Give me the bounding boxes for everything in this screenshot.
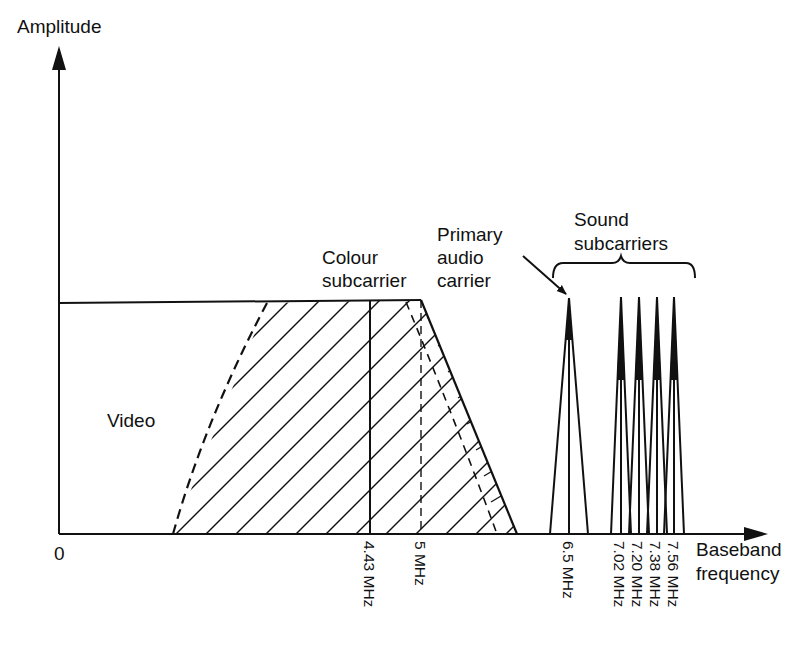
primary-audio-label-line3: carrier bbox=[437, 270, 492, 291]
tick-label-7-38-mhz: 7.38 MHz bbox=[647, 541, 664, 607]
sound-subcarrier-peak-720 bbox=[629, 297, 649, 534]
tick-label-5-mhz: 5 MHz bbox=[412, 541, 429, 586]
primary-audio-label-line1: Primary bbox=[437, 224, 503, 245]
video-top-line bbox=[59, 300, 421, 303]
x-axis-label-line1: Baseband bbox=[696, 539, 782, 560]
sound-subcarrier-peaks bbox=[611, 297, 684, 534]
x-axis bbox=[59, 527, 768, 541]
x-axis-label-line2: frequency bbox=[696, 563, 780, 584]
video-rolloff-left-dashed bbox=[173, 303, 267, 534]
tick-label-7-56-mhz: 7.56 MHz bbox=[665, 541, 682, 607]
x-axis-origin-label: 0 bbox=[54, 543, 65, 564]
tick-label-6-5-mhz: 6.5 MHz bbox=[560, 541, 577, 599]
colour-band-right-edge bbox=[421, 300, 517, 534]
tick-label-7-02-mhz: 7.02 MHz bbox=[611, 541, 628, 607]
sound-subcarriers-label-line1: Sound bbox=[574, 209, 629, 230]
colour-subcarrier-label-line2: subcarrier bbox=[322, 270, 407, 291]
sound-subcarriers-label-line2: subcarriers bbox=[574, 233, 668, 254]
baseband-spectrum-diagram: Amplitude 0 Baseband frequency bbox=[0, 0, 812, 661]
y-axis-label: Amplitude bbox=[17, 16, 102, 37]
sound-subcarrier-peak-702 bbox=[611, 297, 631, 534]
video-label: Video bbox=[107, 410, 155, 431]
primary-audio-peak bbox=[550, 298, 588, 534]
primary-audio-label-line2: audio bbox=[437, 247, 484, 268]
primary-audio-pointer-arrow bbox=[523, 256, 566, 294]
sound-subcarrier-peak-756 bbox=[664, 297, 684, 534]
sound-subcarrier-peak-738 bbox=[647, 297, 667, 534]
tick-label-4-43-mhz: 4.43 MHz bbox=[361, 541, 378, 607]
tick-label-7-20-mhz: 7.20 MHz bbox=[629, 541, 646, 607]
sound-subcarriers-brace bbox=[553, 256, 695, 278]
y-axis bbox=[52, 46, 66, 534]
y-axis-arrow-icon bbox=[52, 46, 66, 70]
colour-subcarrier-label-line1: Colour bbox=[322, 247, 379, 268]
